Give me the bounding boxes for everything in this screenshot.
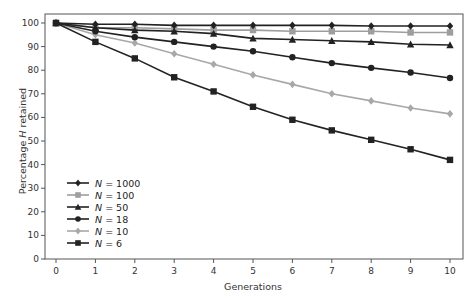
legend-item-n-1000: N = 1000	[67, 178, 140, 189]
circle-marker-icon	[210, 43, 216, 49]
circle-marker-icon	[92, 28, 98, 34]
legend-label: N = 18	[95, 214, 128, 225]
circle-marker-icon	[250, 48, 256, 54]
legend-item-n-100: N = 100	[67, 190, 134, 201]
diamond-marker-icon	[75, 180, 81, 187]
y-axis-label: Percentage H retained	[17, 88, 28, 194]
circle-marker-icon	[75, 216, 81, 222]
square-marker-icon	[75, 240, 81, 246]
x-tick-label: 10	[444, 266, 456, 276]
square-marker-icon	[289, 117, 295, 123]
x-tick-label: 4	[211, 266, 217, 276]
diamond-marker-icon	[289, 22, 295, 30]
square-marker-icon	[132, 55, 138, 61]
diamond-marker-icon	[210, 61, 216, 69]
y-tick-label: 60	[28, 112, 40, 122]
chart-canvas: 0102030405060708090100012345678910 N = 1…	[0, 0, 475, 298]
y-tick-label: 90	[28, 42, 40, 52]
y-tick-label: 20	[28, 207, 40, 217]
legend-item-n-6: N = 6	[67, 238, 122, 249]
diamond-marker-icon	[132, 39, 138, 47]
legend-item-n-50: N = 50	[67, 202, 128, 213]
x-tick-label: 1	[93, 266, 99, 276]
diamond-marker-icon	[407, 22, 413, 30]
square-marker-icon	[53, 20, 59, 26]
square-marker-icon	[407, 29, 413, 35]
diamond-marker-icon	[329, 90, 335, 98]
square-marker-icon	[447, 157, 453, 163]
y-tick-label: 70	[28, 89, 40, 99]
diamond-marker-icon	[289, 81, 295, 89]
line-chart: 0102030405060708090100012345678910 N = 1…	[0, 0, 475, 298]
circle-marker-icon	[407, 69, 413, 75]
legend: N = 1000N = 100N = 50N = 18N = 10N = 6	[67, 178, 140, 249]
square-marker-icon	[171, 74, 177, 80]
legend-label: N = 10	[95, 226, 128, 237]
y-tick-label: 30	[28, 183, 40, 193]
diamond-marker-icon	[250, 71, 256, 79]
diamond-marker-icon	[447, 22, 453, 30]
square-marker-icon	[329, 127, 335, 133]
square-marker-icon	[210, 88, 216, 94]
y-tick-label: 40	[28, 160, 40, 170]
diamond-marker-icon	[447, 110, 453, 118]
square-marker-icon	[75, 192, 81, 198]
legend-label: N = 1000	[95, 178, 140, 189]
diamond-marker-icon	[329, 22, 335, 30]
x-tick-label: 2	[132, 266, 138, 276]
x-tick-label: 0	[53, 266, 59, 276]
circle-marker-icon	[447, 75, 453, 81]
x-tick-label: 7	[329, 266, 335, 276]
y-tick-label: 100	[22, 18, 39, 28]
diamond-marker-icon	[407, 104, 413, 112]
diamond-marker-icon	[368, 97, 374, 105]
square-marker-icon	[92, 39, 98, 45]
x-axis-label: Generations	[224, 281, 282, 292]
y-tick-label: 80	[28, 65, 40, 75]
diamond-marker-icon	[171, 50, 177, 58]
series-layer	[52, 19, 453, 163]
circle-marker-icon	[132, 34, 138, 40]
circle-marker-icon	[329, 60, 335, 66]
x-tick-label: 3	[171, 266, 177, 276]
square-marker-icon	[368, 137, 374, 143]
legend-item-n-18: N = 18	[67, 214, 128, 225]
legend-label: N = 6	[95, 238, 122, 249]
circle-marker-icon	[289, 54, 295, 60]
x-tick-label: 8	[368, 266, 374, 276]
square-marker-icon	[250, 104, 256, 110]
y-tick-label: 0	[33, 254, 39, 264]
legend-label: N = 100	[95, 190, 134, 201]
circle-marker-icon	[368, 65, 374, 71]
axes: 0102030405060708090100012345678910	[22, 14, 463, 276]
square-marker-icon	[447, 29, 453, 35]
x-tick-label: 9	[408, 266, 414, 276]
y-tick-label: 10	[28, 230, 40, 240]
x-tick-label: 6	[290, 266, 296, 276]
y-tick-label: 50	[28, 136, 40, 146]
x-tick-label: 5	[250, 266, 256, 276]
legend-label: N = 50	[95, 202, 128, 213]
diamond-marker-icon	[75, 228, 81, 235]
circle-marker-icon	[171, 39, 177, 45]
square-marker-icon	[407, 146, 413, 152]
legend-item-n-10: N = 10	[67, 226, 128, 237]
